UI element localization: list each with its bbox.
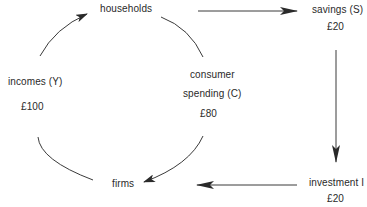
incomes-label: incomes (Y) bbox=[8, 76, 62, 87]
savings-node-label: savings (S) bbox=[312, 4, 363, 15]
incomes-flow-arrow-upper bbox=[40, 14, 87, 56]
firms-node: firms bbox=[112, 178, 134, 189]
consumer-spending-value: £80 bbox=[200, 108, 217, 119]
spending-flow-arrow bbox=[144, 136, 203, 182]
spending-flow-arrow-upper bbox=[161, 17, 203, 57]
households-node: households bbox=[100, 3, 152, 14]
investment-node-value: £20 bbox=[327, 193, 344, 204]
consumer-spending-label-2: spending (C) bbox=[183, 88, 241, 99]
investment-node-label: investment I bbox=[309, 177, 364, 188]
savings-node-value: £20 bbox=[327, 21, 344, 32]
incomes-value: £100 bbox=[21, 101, 44, 112]
circular-flow-diagram bbox=[0, 0, 367, 207]
consumer-spending-label-1: consumer bbox=[190, 69, 235, 80]
incomes-flow-arrow bbox=[38, 137, 93, 180]
